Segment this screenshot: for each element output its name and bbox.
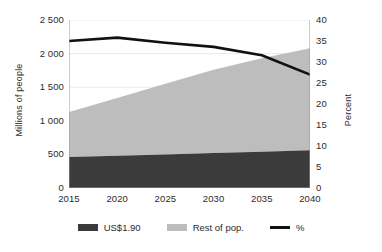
x-axis-tick-label: 2040 [288, 193, 332, 204]
y-axis-right-tick-label: 15 [316, 119, 346, 130]
y-axis-right-tick-label: 20 [316, 98, 346, 109]
legend-item[interactable]: US$1.90 [78, 222, 141, 233]
y-axis-left-tick-label: 500 [22, 148, 64, 159]
y-axis-right-tick-label: 40 [316, 14, 346, 25]
plot-area [69, 20, 310, 188]
legend-item[interactable]: Rest of pop. [167, 222, 244, 233]
x-axis-tick-label: 2015 [47, 193, 91, 204]
y-axis-left-tick-label: 1 500 [22, 81, 64, 92]
y-axis-left-tick-label: 0 [22, 182, 64, 193]
x-axis-tick-label: 2035 [240, 193, 284, 204]
chart-container: Millions of people Percent 05001 0001 50… [0, 0, 382, 252]
y-axis-left-title: Millions of people [14, 50, 24, 150]
legend-label: % [296, 222, 304, 233]
y-axis-right-title: Percent [343, 80, 353, 140]
y-axis-right-tick-label: 25 [316, 77, 346, 88]
legend-line-swatch-icon [270, 226, 290, 229]
y-axis-right-tick-label: 0 [316, 182, 346, 193]
x-axis-tick-label: 2020 [95, 193, 139, 204]
chart-legend: US$1.90Rest of pop.% [0, 222, 382, 233]
legend-label: US$1.90 [104, 222, 141, 233]
legend-color-swatch-icon [78, 224, 98, 231]
area-rest-of-pop [69, 48, 310, 157]
y-axis-left-tick-label: 2 000 [22, 48, 64, 59]
y-axis-left-tick-label: 2 500 [22, 14, 64, 25]
plot-svg [69, 20, 310, 188]
y-axis-left-tick-label: 1 000 [22, 115, 64, 126]
y-axis-right-tick-label: 30 [316, 56, 346, 67]
x-axis-tick-label: 2025 [143, 193, 187, 204]
x-axis-tick-label: 2030 [192, 193, 236, 204]
legend-color-swatch-icon [167, 224, 187, 231]
y-axis-right-tick-label: 35 [316, 35, 346, 46]
y-axis-right-tick-label: 10 [316, 140, 346, 151]
legend-label: Rest of pop. [193, 222, 244, 233]
legend-item[interactable]: % [270, 222, 304, 233]
y-axis-right-tick-label: 5 [316, 161, 346, 172]
